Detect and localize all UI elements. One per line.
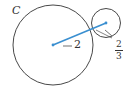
small-radius-numerator: 2 [116, 39, 122, 49]
small-center-dot [105, 22, 108, 25]
small-radius-denominator: 3 [116, 51, 122, 61]
big-radius-label: 2 [74, 38, 81, 51]
big-center-dot [52, 44, 55, 47]
circle-label: C [12, 4, 20, 17]
